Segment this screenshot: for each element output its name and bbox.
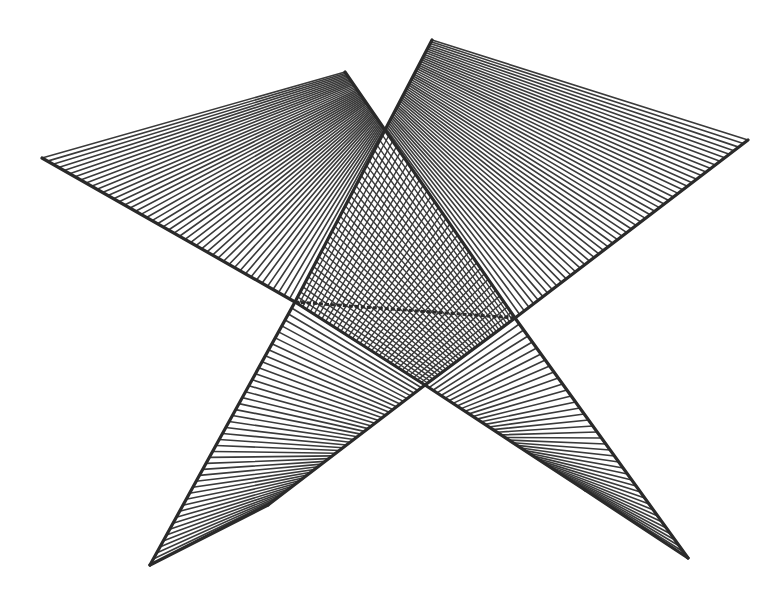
hatch-line — [505, 438, 602, 439]
hatched-panels — [42, 40, 748, 565]
hatch-line — [497, 426, 593, 432]
hatch-line — [273, 125, 382, 290]
outline-edge — [585, 490, 688, 558]
hatch-line — [163, 494, 282, 541]
hatch-line — [166, 491, 285, 535]
outline-edge — [42, 158, 295, 302]
ruled-surface-figure — [0, 0, 773, 602]
hatch-line — [209, 456, 332, 458]
hatch-line — [213, 451, 336, 453]
hatch-line — [157, 500, 276, 554]
hatch-line — [561, 474, 662, 522]
hatch-line — [501, 432, 597, 435]
left-spike-panel — [150, 302, 425, 565]
hatch-line — [425, 53, 715, 165]
hatch-line — [424, 54, 710, 168]
